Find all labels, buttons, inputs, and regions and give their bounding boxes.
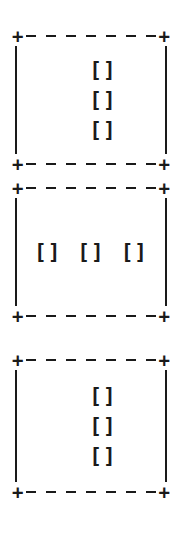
dash-segment (106, 491, 116, 493)
vertical-rule-left (15, 370, 17, 482)
box-2-content: [] [] [] (22, 196, 160, 308)
box-3-top-rule: + + (12, 352, 170, 368)
dash-segment (126, 187, 136, 189)
dash-segment (106, 187, 116, 189)
dash-segment (86, 35, 96, 37)
dash-segment (126, 491, 136, 493)
dashed-line (26, 352, 156, 368)
box-2-bottom-rule: + + (12, 308, 170, 324)
dash-segment (146, 163, 156, 165)
dash-segment (86, 187, 96, 189)
box-3-bottom-rule: + + (12, 484, 170, 500)
dash-segment (86, 163, 96, 165)
dash-segment (106, 359, 116, 361)
corner-plus-icon: + (12, 156, 23, 172)
slot-placeholder[interactable]: [] (89, 120, 116, 141)
dashed-line (26, 180, 156, 196)
dash-segment (106, 163, 116, 165)
dash-segment (106, 35, 116, 37)
corner-plus-icon: + (159, 484, 170, 500)
corner-plus-icon: + (159, 156, 170, 172)
slot-placeholder[interactable]: [] (89, 386, 116, 407)
slot-group-horizontal: [] [] [] (34, 242, 148, 263)
vertical-rule-right (165, 370, 167, 482)
vertical-rule-right (165, 198, 167, 306)
box-1-top-rule: + + (12, 28, 170, 44)
dash-segment (146, 187, 156, 189)
ascii-box-1: + + [] [] [] (12, 28, 170, 172)
dashed-line (26, 156, 156, 172)
box-1-content: [] [] [] (22, 44, 160, 156)
dash-segment (126, 35, 136, 37)
vertical-rule-left (15, 46, 17, 154)
dash-segment (146, 35, 156, 37)
dash-segment (26, 187, 36, 189)
dash-segment (26, 491, 36, 493)
dash-segment (46, 491, 56, 493)
corner-plus-icon: + (12, 484, 23, 500)
box-2-body: [] [] [] (12, 196, 170, 308)
dash-segment (106, 315, 116, 317)
dash-segment (126, 163, 136, 165)
box-2-top-rule: + + (12, 180, 170, 196)
ascii-diagram-canvas: + + [] [] [] (0, 0, 185, 536)
corner-plus-icon: + (12, 308, 23, 324)
dash-segment (66, 163, 76, 165)
dashed-line (26, 28, 156, 44)
dash-segment (26, 35, 36, 37)
corner-plus-icon: + (159, 28, 170, 44)
dash-segment (146, 491, 156, 493)
dash-segment (86, 359, 96, 361)
dash-segment (46, 187, 56, 189)
dash-segment (26, 163, 36, 165)
dash-segment (46, 35, 56, 37)
corner-plus-icon: + (12, 28, 23, 44)
dash-segment (146, 359, 156, 361)
box-1-body: [] [] [] (12, 44, 170, 156)
ascii-box-2: + + [] [] [] (12, 180, 170, 324)
slot-placeholder[interactable]: [] (89, 90, 116, 111)
dashed-line (26, 308, 156, 324)
slot-placeholder[interactable]: [] (34, 242, 61, 263)
corner-plus-icon: + (159, 308, 170, 324)
corner-plus-icon: + (12, 352, 23, 368)
dash-segment (66, 35, 76, 37)
dash-segment (26, 315, 36, 317)
dash-segment (66, 359, 76, 361)
slot-placeholder[interactable]: [] (89, 416, 116, 437)
dash-segment (86, 315, 96, 317)
box-3-body: [] [] [] (12, 368, 170, 484)
dash-segment (46, 315, 56, 317)
box-1-bottom-rule: + + (12, 156, 170, 172)
ascii-box-3: + + [] [] [] (12, 352, 170, 500)
dash-segment (46, 163, 56, 165)
dash-segment (46, 359, 56, 361)
corner-plus-icon: + (12, 180, 23, 196)
dash-segment (146, 315, 156, 317)
box-3-content: [] [] [] (22, 368, 160, 484)
dash-segment (26, 359, 36, 361)
dash-segment (66, 315, 76, 317)
dash-segment (126, 315, 136, 317)
slot-placeholder[interactable]: [] (77, 242, 104, 263)
slot-placeholder[interactable]: [] (89, 446, 116, 467)
dashed-line (26, 484, 156, 500)
vertical-rule-right (165, 46, 167, 154)
vertical-rule-left (15, 198, 17, 306)
slot-placeholder[interactable]: [] (121, 242, 148, 263)
dash-segment (66, 491, 76, 493)
slot-group-vertical: [] [] [] (89, 386, 116, 467)
slot-group-vertical: [] [] [] (89, 60, 116, 141)
dash-segment (126, 359, 136, 361)
corner-plus-icon: + (159, 352, 170, 368)
corner-plus-icon: + (159, 180, 170, 196)
slot-placeholder[interactable]: [] (89, 60, 116, 81)
dash-segment (86, 491, 96, 493)
dash-segment (66, 187, 76, 189)
